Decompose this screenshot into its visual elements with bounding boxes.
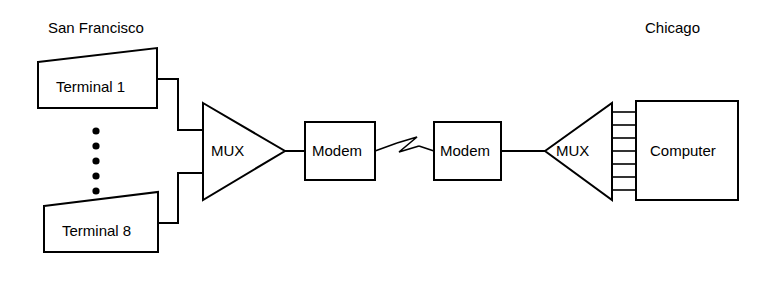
network-diagram: San Francisco Chicago Terminal 1 Termina… (0, 0, 768, 281)
terminal-8-label: Terminal 8 (62, 222, 131, 239)
wire-terminal-8-to-mux (158, 173, 203, 223)
terminal-1-label: Terminal 1 (56, 78, 125, 95)
modem-left-label: Modem (312, 142, 362, 159)
computer-label: Computer (650, 142, 716, 159)
terminal-ellipsis (92, 127, 99, 194)
location-label-right: Chicago (645, 19, 700, 36)
diagram-canvas: San Francisco Chicago Terminal 1 Termina… (0, 0, 768, 281)
location-label-left: San Francisco (48, 19, 144, 36)
wire-terminal-1-to-mux (157, 79, 203, 130)
telephone-line-zigzag-icon (375, 137, 434, 152)
mux-left-label: MUX (211, 142, 244, 159)
computer-bus-lines (612, 112, 636, 190)
mux-right-label: MUX (556, 142, 589, 159)
modem-right-label: Modem (440, 142, 490, 159)
